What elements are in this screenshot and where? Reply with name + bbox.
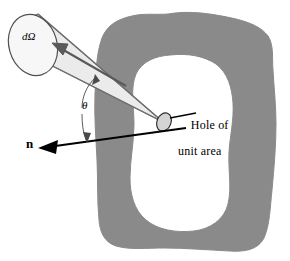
hole-caption: Hole of unit area <box>178 106 229 184</box>
radiation-cavity-diagram: dΩ θ n Hole of unit area <box>0 0 290 261</box>
diagram-canvas <box>0 0 290 261</box>
hole-caption-line-2: unit area <box>178 145 229 158</box>
solid-angle-label: dΩ <box>22 31 35 43</box>
normal-vector-label: n <box>26 137 33 151</box>
theta-angle-label: θ <box>82 100 87 112</box>
hole-caption-line-1: Hole of <box>191 118 229 132</box>
